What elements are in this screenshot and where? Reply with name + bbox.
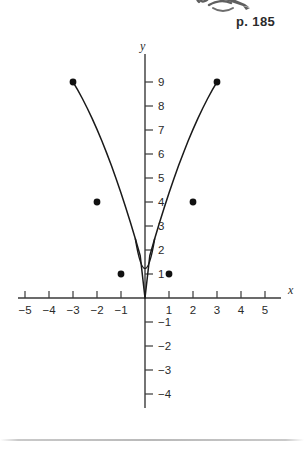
- data-point: [166, 271, 173, 278]
- data-point: [190, 199, 197, 206]
- x-tick-label: 3: [214, 304, 220, 316]
- x-tick-label: 2: [190, 304, 196, 316]
- x-tick-label: −4: [42, 304, 56, 316]
- page-root: p. 185 −5 −4: [0, 0, 304, 449]
- y-tick-label: −2: [158, 340, 171, 352]
- y-tick-label: 7: [158, 124, 164, 136]
- y-tick-label: −4: [158, 388, 172, 400]
- x-tick-label: −5: [18, 304, 31, 316]
- page-reference: p. 185: [236, 14, 275, 29]
- x-tick-label: 5: [262, 304, 268, 316]
- y-axis-tick-labels-negative: −1 −2 −3 −4: [158, 316, 172, 400]
- x-tick-label: 1: [166, 304, 172, 316]
- x-tick-label: −3: [66, 304, 79, 316]
- parabola-graph: −5 −4 −3 −2 −1 1 2 3 4 5: [0, 36, 304, 416]
- x-axis-tick-labels: −5 −4 −3 −2 −1 1 2 3 4 5: [18, 304, 268, 316]
- y-tick-label: 5: [158, 172, 164, 184]
- footer-divider: [0, 439, 304, 441]
- data-point: [94, 199, 101, 206]
- header: p. 185: [0, 0, 304, 36]
- y-axis-label: y: [139, 39, 146, 53]
- data-point: [118, 271, 125, 278]
- y-tick-label: 1: [158, 268, 164, 280]
- data-point: [70, 79, 77, 86]
- parabola-curve: [73, 82, 145, 298]
- parabola-curve-right: [145, 82, 217, 298]
- coordinate-plot: −5 −4 −3 −2 −1 1 2 3 4 5: [0, 36, 304, 416]
- y-axis-tick-labels-positive: 9 8 7 6 5 4 3 2 1: [158, 76, 165, 280]
- y-axis-ticks-negative: [145, 322, 153, 416]
- y-tick-label: −1: [158, 316, 171, 328]
- y-tick-label: 8: [158, 100, 164, 112]
- x-axis-label: x: [287, 283, 294, 297]
- x-tick-label: 4: [238, 304, 245, 316]
- x-tick-label: −2: [90, 304, 103, 316]
- y-tick-label: 6: [158, 148, 164, 160]
- data-point: [214, 79, 221, 86]
- y-tick-label: 9: [158, 76, 164, 88]
- y-tick-label: −3: [158, 364, 171, 376]
- y-tick-label: 2: [158, 244, 164, 256]
- y-axis-ticks-positive: [145, 82, 153, 274]
- x-tick-label: −1: [114, 304, 127, 316]
